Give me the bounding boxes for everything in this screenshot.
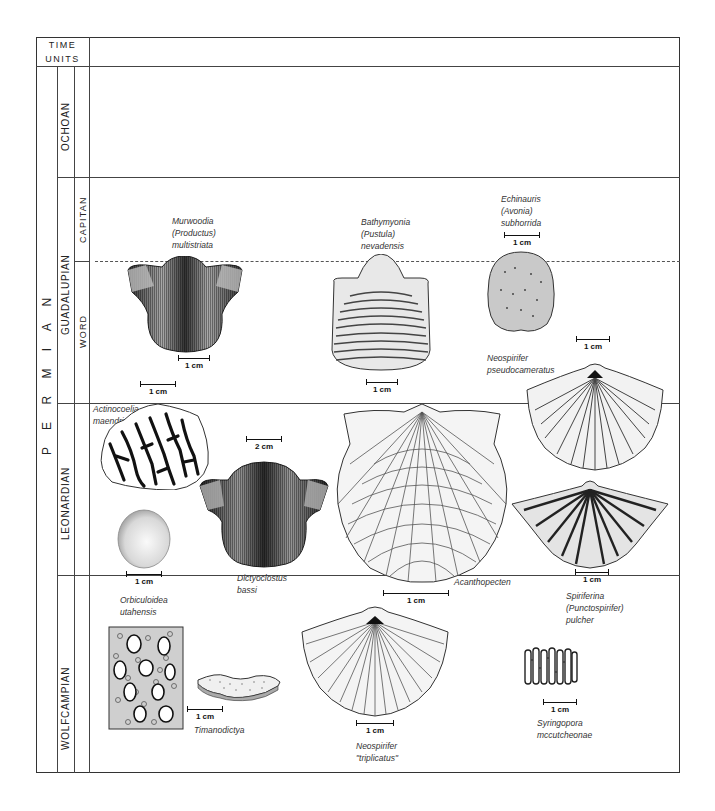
label-neospirifer-triplicatus: Neospirifer "triplicatus": [356, 740, 398, 764]
label-line: bassi: [237, 584, 287, 596]
stage-word: WORD: [78, 315, 88, 348]
label-bathymyonia: Bathymyonia (Pustula) nevadensis: [361, 216, 410, 252]
label-line: Dictyoclostus: [237, 572, 287, 584]
stage-capitan: CAPITAN: [78, 196, 88, 243]
scale-bar-bathymyonia: 1 cm: [366, 379, 398, 394]
scale-bar-neospirifer-triplicatus: 1 cm: [356, 720, 394, 735]
label-spiriferina: Spiriferina (Punctospirifer) pulcher: [566, 590, 624, 626]
label-line: Timanodictya: [194, 724, 244, 736]
scale-label: 1 cm: [178, 361, 210, 370]
scale-label: 1 cm: [366, 385, 398, 394]
actinocoelia-illustration: [98, 404, 210, 490]
column-divider-series: [74, 66, 75, 773]
murwoodia-illustration: [126, 256, 244, 354]
scale-label: 1 cm: [356, 726, 394, 735]
bathymyonia-illustration: [328, 254, 434, 372]
label-line: Acanthopecten: [454, 576, 511, 588]
label-dictyoclostus: Dictyoclostus bassi: [237, 572, 287, 596]
label-murwoodia: Murwoodia (Productus) multistriata: [172, 215, 216, 251]
label-line: (Punctospirifer): [566, 602, 624, 614]
scale-bar-spiriferina: 1 cm: [575, 569, 609, 584]
label-timanodictya: Timanodictya: [194, 724, 244, 736]
label-line: mccutcheonae: [537, 729, 592, 741]
echinauris-illustration: [485, 250, 557, 334]
scale-bar-dictyoclostus: 2 cm: [246, 436, 282, 451]
label-line: Syringopora: [537, 717, 592, 729]
label-line: pulcher: [566, 614, 624, 626]
label-line: (Avonia): [501, 205, 541, 217]
label-line: subhorrida: [501, 217, 541, 229]
label-line: Echinauris: [501, 193, 541, 205]
label-line: (Productus): [172, 227, 216, 239]
scale-bar-syringopora: 1 cm: [543, 699, 577, 714]
coral-block-illustration: [108, 626, 184, 730]
label-line: Orbiculoidea: [120, 594, 168, 606]
label-line: Neospirifer: [356, 740, 398, 752]
column-divider-period: [57, 66, 58, 773]
spiriferina-illustration: [510, 476, 670, 570]
acanthopecten-illustration: [334, 404, 510, 584]
dictyoclostus-illustration: [198, 460, 330, 570]
boundary-capitan-word: [74, 261, 90, 262]
boundary-ochoan-guadalupian: [57, 177, 680, 178]
header-divider: [36, 66, 680, 67]
period-label: P E R M I A N: [40, 291, 54, 455]
label-line: nevadensis: [361, 240, 410, 252]
scale-label: 1 cm: [543, 705, 577, 714]
orbiculoidea-illustration: [116, 508, 172, 570]
neospirifer-triplicatus-illustration: [300, 602, 450, 718]
scale-label: 1 cm: [126, 577, 162, 586]
label-line: utahensis: [120, 606, 168, 618]
scale-label: 1 cm: [187, 712, 223, 721]
syringopora-illustration: [523, 646, 579, 686]
label-echinauris: Echinauris (Avonia) subhorrida: [501, 193, 541, 229]
series-ochoan: OCHOAN: [60, 102, 71, 151]
scale-label: 1 cm: [575, 575, 609, 584]
label-line: Spiriferina: [566, 590, 624, 602]
scale-bar-timanodictya: 1 cm: [187, 706, 223, 721]
scale-bar-orbiculoidea: 1 cm: [126, 571, 162, 586]
label-line: Bathymyonia: [361, 216, 410, 228]
series-leonardian: LEONARDIAN: [60, 467, 71, 540]
scale-label: 1 cm: [576, 342, 610, 351]
scale-label: 1 cm: [504, 238, 540, 247]
header-units: UNITS: [36, 54, 89, 64]
label-line: (Pustula): [361, 228, 410, 240]
series-guadalupian: GUADALUPIAN: [60, 255, 71, 336]
header-time: TIME: [36, 40, 89, 50]
label-syringopora: Syringopora mccutcheonae: [537, 717, 592, 741]
scale-label: 2 cm: [246, 442, 282, 451]
scale-bar-echinauris: 1 cm: [504, 232, 540, 247]
label-acanthopecten: Acanthopecten: [454, 576, 511, 588]
scale-bar-neospirifer-pseudocameratus: 1 cm: [576, 336, 610, 351]
timanodictya-illustration: [196, 668, 282, 702]
label-line: "triplicatus": [356, 752, 398, 764]
label-line: Murwoodia: [172, 215, 216, 227]
neospirifer-pseudocameratus-illustration: [525, 360, 665, 472]
column-divider-content: [89, 37, 90, 773]
scale-label: 1 cm: [140, 387, 176, 396]
scale-bar-murwoodia: 1 cm: [178, 355, 210, 370]
series-wolfcampian: WOLFCAMPIAN: [60, 667, 71, 750]
scale-bar-actinocoelia: 1 cm: [140, 381, 176, 396]
label-orbiculoidea: Orbiculoidea utahensis: [120, 594, 168, 618]
label-line: multistriata: [172, 239, 216, 251]
